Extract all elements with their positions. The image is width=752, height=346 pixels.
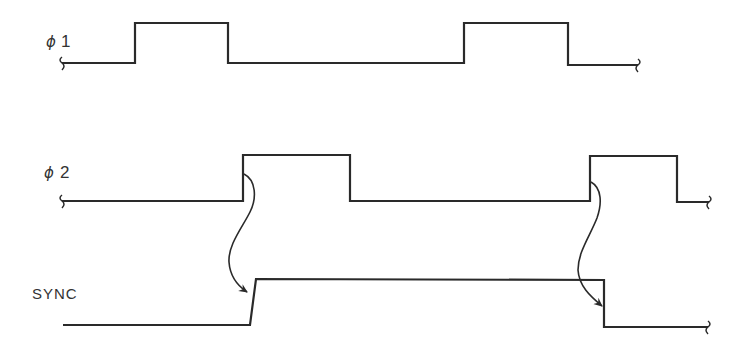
phi1-label: ϕ 1 (46, 32, 70, 51)
sync-end-break-icon (706, 321, 710, 334)
sync-label: SYNC (32, 285, 78, 302)
phi-symbol: ϕ (46, 33, 56, 51)
phi1-end-break-icon (636, 59, 640, 72)
phi2-end-break-icon (707, 196, 711, 209)
phi2-number: 2 (60, 163, 69, 182)
arrow-phi2-rise-to-sync-rise (229, 174, 254, 292)
timing-diagram: ϕ 1 ϕ 2 SYNC (0, 0, 752, 346)
sync-waveform (63, 279, 708, 327)
phi-symbol: ϕ (44, 164, 54, 182)
phi2-label: ϕ 2 (44, 163, 69, 182)
phi1-waveform (62, 23, 638, 65)
phi2-waveform (62, 155, 709, 202)
phi1-number: 1 (61, 32, 70, 51)
